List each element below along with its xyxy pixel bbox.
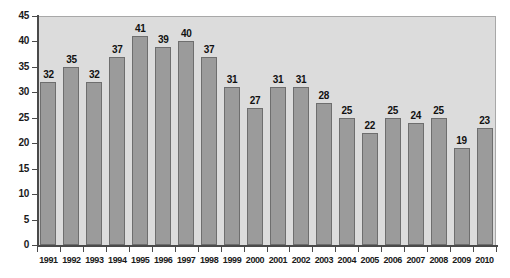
- bar[interactable]: [63, 67, 79, 245]
- bar-value-label: 40: [172, 28, 200, 39]
- bar-value-label: 31: [218, 74, 246, 85]
- bar[interactable]: [385, 118, 401, 245]
- x-tick-mark: [129, 247, 130, 252]
- x-tick-mark: [198, 247, 199, 252]
- y-tick-mark: [32, 16, 37, 17]
- y-tick-mark: [32, 143, 37, 144]
- y-tick-mark: [32, 169, 37, 170]
- x-tick-mark: [427, 247, 428, 252]
- x-tick-mark: [312, 247, 313, 252]
- bar[interactable]: [339, 118, 355, 245]
- bar-chart: 051015202530354045 323532374139403731273…: [0, 0, 510, 278]
- bar-value-label: 28: [310, 90, 338, 101]
- y-tick-mark: [32, 92, 37, 93]
- bar[interactable]: [224, 87, 240, 245]
- bar[interactable]: [316, 103, 332, 245]
- y-tick-mark: [32, 118, 37, 119]
- y-tick-label: 10: [18, 188, 29, 199]
- y-tick-label: 15: [18, 163, 29, 174]
- x-tick-mark: [60, 247, 61, 252]
- y-axis-tick: 35: [0, 67, 37, 68]
- bar[interactable]: [362, 133, 378, 245]
- x-tick-mark: [106, 247, 107, 252]
- x-tick-label: 2010: [472, 255, 498, 266]
- bar-value-label: 35: [57, 54, 85, 65]
- bar[interactable]: [132, 36, 148, 245]
- y-tick-label: 30: [18, 86, 29, 97]
- x-tick-mark: [152, 247, 153, 252]
- y-tick-mark: [32, 67, 37, 68]
- y-axis-tick: 20: [0, 143, 37, 144]
- bar[interactable]: [408, 123, 424, 245]
- y-axis-tick: 40: [0, 41, 37, 42]
- bar[interactable]: [270, 87, 286, 245]
- y-tick-mark: [32, 220, 37, 221]
- y-tick-label: 35: [18, 61, 29, 72]
- y-axis-tick: 45: [0, 16, 37, 17]
- bar[interactable]: [40, 82, 56, 245]
- y-tick-mark: [32, 194, 37, 195]
- bar-value-label: 25: [333, 105, 361, 116]
- x-tick-mark: [450, 247, 451, 252]
- y-axis-line: [37, 15, 39, 246]
- x-tick-mark: [381, 247, 382, 252]
- bar-value-label: 27: [241, 95, 269, 106]
- y-tick-label: 20: [18, 137, 29, 148]
- bar[interactable]: [155, 47, 171, 245]
- bar[interactable]: [201, 57, 217, 245]
- bar[interactable]: [454, 148, 470, 245]
- y-tick-mark: [32, 41, 37, 42]
- x-tick-mark: [83, 247, 84, 252]
- y-tick-mark: [32, 245, 37, 246]
- bar[interactable]: [178, 41, 194, 245]
- bar-value-label: 32: [80, 69, 108, 80]
- y-axis-tick: 5: [0, 220, 37, 221]
- x-tick-mark: [221, 247, 222, 252]
- x-tick-mark: [37, 247, 38, 252]
- x-tick-mark: [496, 247, 497, 252]
- bar-value-label: 22: [356, 120, 384, 131]
- y-tick-label: 25: [18, 112, 29, 123]
- y-axis-tick: 0: [0, 245, 37, 246]
- x-tick-mark: [267, 247, 268, 252]
- x-tick-mark: [473, 247, 474, 252]
- x-tick-mark: [175, 247, 176, 252]
- y-tick-label: 5: [24, 214, 29, 225]
- y-axis-tick: 10: [0, 194, 37, 195]
- y-axis-tick: 30: [0, 92, 37, 93]
- bar-value-label: 23: [471, 115, 499, 126]
- x-tick-mark: [358, 247, 359, 252]
- bar-value-label: 31: [287, 74, 315, 85]
- bar-value-label: 37: [195, 44, 223, 55]
- bar[interactable]: [431, 118, 447, 245]
- bar-value-label: 37: [103, 44, 131, 55]
- bar[interactable]: [477, 128, 493, 245]
- bar-value-label: 25: [425, 105, 453, 116]
- y-tick-label: 0: [24, 239, 29, 250]
- y-axis-tick: 15: [0, 169, 37, 170]
- bar-value-label: 19: [448, 135, 476, 146]
- bar-value-label: 32: [34, 69, 62, 80]
- y-tick-label: 40: [18, 35, 29, 46]
- bar[interactable]: [109, 57, 125, 245]
- bar[interactable]: [247, 108, 263, 245]
- x-tick-mark: [244, 247, 245, 252]
- y-tick-label: 45: [18, 10, 29, 21]
- x-tick-mark: [335, 247, 336, 252]
- x-tick-mark: [289, 247, 290, 252]
- x-tick-mark: [404, 247, 405, 252]
- y-axis-tick: 25: [0, 118, 37, 119]
- bar[interactable]: [86, 82, 102, 245]
- bar[interactable]: [293, 87, 309, 245]
